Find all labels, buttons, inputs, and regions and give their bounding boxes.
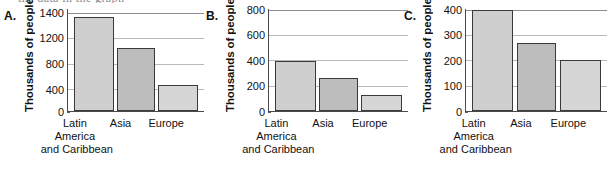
y-tick-a-800: 800 <box>46 59 64 70</box>
bar-b-europe[interactable] <box>361 95 402 111</box>
x-category-b-europe: Europe <box>346 117 393 173</box>
y-tick-b-800: 800 <box>247 5 265 16</box>
x-cat-c-europe: Europe <box>545 117 592 130</box>
chart-panel-c: C. Thousands of people 0 100 200 300 400 <box>402 0 602 179</box>
x-category-b-asia: Asia <box>300 117 347 173</box>
plot-wrap-c: Thousands of people 0 100 200 300 400 <box>420 9 607 112</box>
plot-area-a <box>67 9 204 112</box>
y-tick-c-300: 300 <box>444 29 462 40</box>
panel-label-c: C. <box>404 9 416 23</box>
x-cat-a-latin-l2: America <box>52 130 98 143</box>
bar-b-asia[interactable] <box>319 78 358 111</box>
y-tick-labels-c: 0 100 200 300 400 <box>435 9 465 112</box>
bar-c-asia[interactable] <box>517 43 556 111</box>
y-tick-c-100: 100 <box>444 81 462 92</box>
chart-panel-b: B. Thousands of people 0 200 400 600 800 <box>203 0 402 179</box>
bar-a-europe[interactable] <box>158 85 198 111</box>
bar-a-latin-america[interactable] <box>74 17 114 111</box>
y-tick-a-400: 400 <box>46 84 64 95</box>
y-axis-title-a: Thousands of people <box>22 9 36 112</box>
x-cat-b-latin-l2: America <box>253 130 300 143</box>
x-category-a-europe: Europe <box>143 117 189 173</box>
x-category-labels-b: Latin America and Caribbean Asia Europe <box>253 117 393 173</box>
x-cat-c-latin-l1: Latin <box>450 117 497 130</box>
y-tick-b-400: 400 <box>247 55 265 66</box>
panel-label-b: B. <box>206 9 218 23</box>
x-category-labels-a: Latin America and Caribbean Asia Europe <box>52 117 189 173</box>
plot-wrap-a: Thousands of people 0 400 800 1200 1400 <box>22 9 204 112</box>
y-tick-a-0: 0 <box>58 107 64 118</box>
bars-b <box>269 9 408 111</box>
x-cat-a-asia: Asia <box>98 117 144 130</box>
x-cat-b-latin-l1: Latin <box>253 117 300 130</box>
x-cat-b-europe: Europe <box>346 117 393 130</box>
chart-panel-a: A. Thousands of people 0 400 800 1200 14… <box>0 0 203 179</box>
y-tick-a-1200: 1200 <box>40 33 64 44</box>
bars-a <box>68 9 204 111</box>
x-category-c-europe: Europe <box>545 117 592 173</box>
bar-a-asia[interactable] <box>117 48 155 111</box>
x-cat-c-latin-l2: America <box>450 130 497 143</box>
x-cat-a-europe: Europe <box>143 117 189 130</box>
y-tickmark-a-0 <box>67 112 70 113</box>
y-tickmark-c-0 <box>465 112 468 113</box>
y-tick-b-0: 0 <box>259 107 265 118</box>
x-category-a-latin-america: Latin America and Caribbean <box>52 117 98 173</box>
bar-c-europe[interactable] <box>560 60 601 111</box>
x-category-c-asia: Asia <box>497 117 544 173</box>
y-tick-a-1400: 1400 <box>40 8 64 19</box>
y-tick-c-0: 0 <box>456 107 462 118</box>
y-tick-c-400: 400 <box>444 5 462 16</box>
x-category-labels-c: Latin America and Caribbean Asia Europe <box>450 117 592 173</box>
plot-area-b <box>268 9 408 112</box>
x-cat-c-asia: Asia <box>497 117 544 130</box>
y-tick-labels-a: 0 400 800 1200 1400 <box>37 9 67 112</box>
y-tickmark-b-0 <box>268 112 271 113</box>
y-tick-b-200: 200 <box>247 81 265 92</box>
plot-wrap-b: Thousands of people 0 200 400 600 800 <box>223 9 408 112</box>
y-tick-b-600: 600 <box>247 29 265 40</box>
y-tick-labels-b: 0 200 400 600 800 <box>238 9 268 112</box>
y-axis-title-c: Thousands of people <box>420 9 434 112</box>
x-category-a-asia: Asia <box>98 117 144 173</box>
x-cat-a-latin-l1: Latin <box>52 117 98 130</box>
x-category-c-latin-america: Latin America and Caribbean <box>450 117 497 173</box>
y-axis-title-b: Thousands of people <box>223 9 237 112</box>
x-cat-b-asia: Asia <box>300 117 347 130</box>
panel-label-a: A. <box>4 9 16 23</box>
plot-area-c <box>465 9 607 112</box>
bars-c <box>466 9 607 111</box>
bar-c-latin-america[interactable] <box>472 10 513 111</box>
bar-b-latin-america[interactable] <box>275 61 316 111</box>
x-category-b-latin-america: Latin America and Caribbean <box>253 117 300 173</box>
y-tick-c-200: 200 <box>444 55 462 66</box>
